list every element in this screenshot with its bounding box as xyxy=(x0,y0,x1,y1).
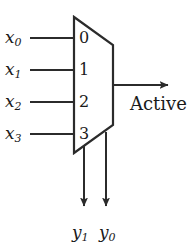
output-label-y0: y0 xyxy=(99,222,116,242)
input-label-x0: x0 xyxy=(5,27,22,47)
port-label-1: 1 xyxy=(79,60,89,79)
output-label-active: Active xyxy=(130,93,187,114)
encoder-diagram-figure: x0 x1 x2 x3 0 1 2 3 Active y1 y0 xyxy=(0,0,194,252)
input-label-x1: x1 xyxy=(5,59,22,79)
input-label-x2: x2 xyxy=(5,91,22,111)
diagram-svg xyxy=(0,0,194,252)
port-label-2: 2 xyxy=(79,92,89,111)
input-label-x3: x3 xyxy=(5,123,22,143)
output-label-y1: y1 xyxy=(72,222,89,242)
port-label-3: 3 xyxy=(79,124,89,143)
port-label-0: 0 xyxy=(79,28,89,47)
